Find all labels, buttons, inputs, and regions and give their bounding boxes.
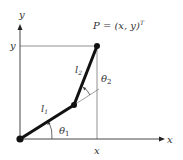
base-joint — [16, 135, 23, 142]
link1-label: l1 — [41, 103, 48, 115]
theta2-label: θ2 — [101, 73, 112, 86]
x-axis-label: x — [167, 134, 173, 145]
y-axis-label: y — [18, 9, 25, 20]
end-effector-label: P = (x, y)T — [92, 19, 145, 31]
end-effector-joint — [94, 43, 100, 49]
y-coordinate-label: y — [9, 40, 16, 51]
y-axis-arrow-icon — [18, 24, 23, 30]
x-axis-arrow-icon — [159, 137, 165, 142]
x-coordinate-label: x — [94, 145, 100, 156]
link2-label: l2 — [75, 64, 82, 76]
elbow-joint — [71, 102, 77, 108]
theta1-label: θ1 — [59, 125, 70, 138]
two-link-arm-diagram: y x y x l1 l2 θ1 θ2 P = (x, y)T — [0, 0, 183, 160]
